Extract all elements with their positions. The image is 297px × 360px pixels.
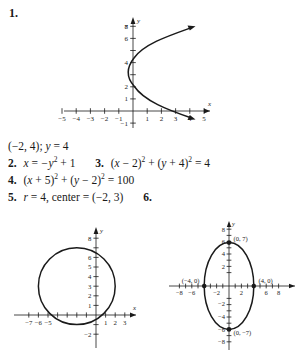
x-axis-arrow (204, 109, 210, 114)
point-0-7 (227, 240, 232, 245)
answer-4-x: x (27, 174, 32, 186)
y-axis-arrow (94, 227, 99, 234)
svg-text:2: 2 (240, 289, 243, 296)
answer-2-exp: 2 (54, 155, 58, 164)
svg-text:−2: −2 (84, 331, 92, 338)
answer-4-t4: − 2) (82, 174, 101, 186)
answer-2-eq: = (31, 157, 38, 169)
answer-1-var: y (45, 140, 50, 152)
svg-text:−2: −2 (213, 289, 220, 296)
point-label-0-7: (0, 7) (234, 235, 248, 243)
y-tick-labels: 8 6 4 2 −2 −4 −6 −8 (218, 226, 226, 346)
answer-2-tail: + 1 (60, 157, 75, 169)
y-axis-arrow (227, 221, 231, 227)
answer-5-r: r (24, 191, 28, 203)
svg-text:5: 5 (88, 263, 92, 270)
svg-text:−6: −6 (218, 326, 226, 333)
svg-text:1: 1 (104, 319, 107, 326)
answer-2-base: −y (41, 157, 54, 169)
x-axis-arrow (130, 313, 136, 318)
parabola-curve (128, 28, 191, 118)
svg-text:−7: −7 (25, 319, 33, 326)
y-axis-label: y (231, 220, 235, 227)
answer-4-e2: 2 (101, 172, 105, 181)
svg-text:8: 8 (277, 289, 280, 296)
answer-line-4: 4. (x + 5)2 + (y − 2)2 = 100 (8, 172, 293, 189)
answer-4-t5: = 100 (108, 174, 135, 186)
answer-4-t3: + ( (61, 174, 74, 186)
answer-3-x: x (115, 157, 120, 169)
answer-3-t3: + ( (148, 157, 161, 169)
svg-text:2: 2 (125, 83, 129, 91)
answer-line-1: (−2, 4); y = 4 (8, 138, 293, 155)
y-axis-label: y (136, 17, 141, 25)
svg-text:−2: −2 (101, 115, 109, 123)
svg-text:1: 1 (145, 115, 149, 123)
point-4-0 (252, 284, 257, 289)
answer-3-y: y (161, 157, 166, 169)
answer-2-number: 2. (8, 157, 17, 169)
point-label-neg4-0: (−4, 0) (182, 277, 200, 285)
svg-text:−1: −1 (121, 120, 129, 128)
answer-3-t2: − 2) (123, 157, 142, 169)
answer-line-2-3: 2. x = −y2 + 1 3. (x − 2)2 + (y + 4)2 = … (8, 155, 293, 172)
x-axis-label: x (132, 304, 136, 311)
point-label-0-neg7: (0, −7) (234, 329, 252, 337)
answer-line-5-6: 5. r = 4, center = (−2, 3) 6. (8, 189, 293, 206)
ellipse-graph: (0, 7) (4, 0) (−4, 0) (0, −7) −8 −6 −2 2… (163, 214, 297, 356)
answer-4-number: 4. (8, 174, 17, 186)
svg-text:−6: −6 (188, 289, 196, 296)
problem-number-1: 1. (9, 6, 18, 21)
x-axis-label: x (207, 100, 212, 108)
svg-text:2: 2 (160, 115, 164, 123)
answer-3-e1: 2 (142, 155, 146, 164)
y-tick-labels: −1 1 2 4 6 7 (121, 23, 129, 128)
svg-text:−2: −2 (218, 300, 225, 307)
svg-text:2: 2 (222, 263, 225, 270)
svg-text:−8: −8 (218, 338, 225, 345)
y-axis-arrow (131, 17, 136, 24)
svg-text:3: 3 (174, 115, 178, 123)
svg-text:4: 4 (222, 250, 226, 257)
point-0-neg7 (227, 327, 232, 332)
answer-4-t2: + 5) (35, 174, 54, 186)
x-axis-arrow (289, 284, 295, 288)
svg-text:6: 6 (265, 289, 269, 296)
svg-text:−4: −4 (72, 115, 80, 123)
answer-5-number: 5. (8, 191, 17, 203)
x-tick-labels: −8 −6 −2 2 6 8 (176, 289, 280, 296)
ytick-label-8: 8 (125, 23, 129, 31)
answer-3-e2: 2 (188, 155, 192, 164)
svg-text:3: 3 (88, 283, 92, 290)
circle-graph: −7 −6 −5 1 2 3 −2 1 2 3 4 5 6 8 x y (8, 214, 153, 354)
answer-4-e1: 2 (54, 172, 58, 181)
svg-text:8: 8 (88, 235, 92, 242)
worksheet-page: 1. (0, 0, 297, 360)
svg-text:1: 1 (125, 95, 129, 103)
svg-text:8: 8 (222, 226, 225, 233)
answer-1-point: (−2, 4); (8, 140, 43, 152)
svg-text:2: 2 (88, 292, 92, 299)
svg-text:−5: −5 (58, 115, 66, 123)
curve-arrow-upper (188, 26, 196, 31)
svg-text:4: 4 (88, 273, 92, 280)
answer-3-t4: + 4) (169, 157, 188, 169)
point-neg4-0 (202, 284, 207, 289)
answer-4-y: y (74, 174, 79, 186)
svg-text:3: 3 (123, 319, 127, 326)
svg-text:−3: −3 (87, 115, 95, 123)
svg-text:6: 6 (88, 254, 92, 261)
answer-3-number: 3. (95, 157, 104, 169)
answer-1-eq: = 4 (53, 140, 68, 152)
answer-3-t5: = 4 (195, 157, 210, 169)
point-label-4-0: (4, 0) (259, 277, 273, 285)
svg-text:5: 5 (202, 115, 206, 123)
svg-text:4: 4 (188, 115, 192, 123)
answer-5-text: = 4, center = (−2, 3) (31, 191, 124, 203)
svg-text:1: 1 (88, 302, 91, 309)
svg-text:−6: −6 (35, 319, 43, 326)
svg-text:4: 4 (125, 59, 129, 67)
svg-text:2: 2 (113, 319, 117, 326)
svg-text:−4: −4 (218, 313, 226, 320)
answer-2-lhs: x (24, 157, 29, 169)
